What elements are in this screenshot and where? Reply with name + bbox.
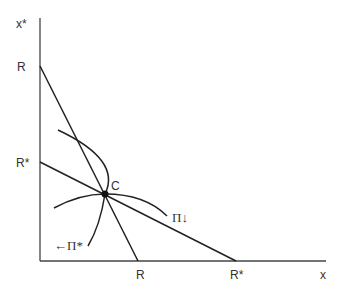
curve-label-pi-star: ←Π* [54, 238, 83, 253]
y-tick-Rstar: R* [16, 156, 30, 170]
equilibrium-point-c [102, 191, 109, 198]
diagram-canvas: x* x R R* R R* C Π↓ ←Π* [0, 0, 350, 295]
y-axis-label: x* [16, 17, 27, 31]
y-tick-R: R [17, 60, 26, 74]
x-tick-R: R [136, 268, 145, 282]
line-R-R [40, 66, 138, 261]
x-axis-label: x [320, 268, 326, 282]
point-label-c: C [111, 179, 120, 193]
curve-label-pi: Π↓ [172, 210, 188, 225]
x-tick-Rstar: R* [230, 268, 244, 282]
